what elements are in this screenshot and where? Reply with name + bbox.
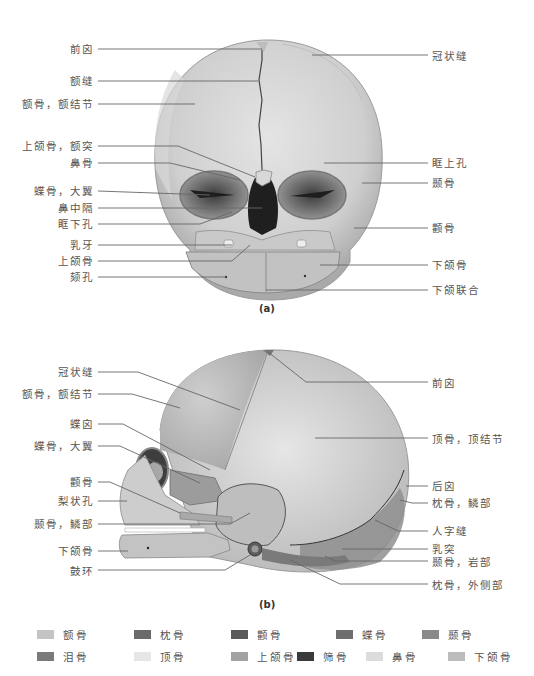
label-occipital-lateral-part: 枕骨，外侧部 bbox=[432, 579, 504, 591]
legend-label: 顶骨 bbox=[160, 649, 186, 664]
legend-label: 泪骨 bbox=[63, 649, 89, 664]
label-anterior-fontanelle: 前囟 bbox=[432, 377, 456, 389]
legend-item-nasal: 鼻骨 bbox=[366, 649, 418, 663]
legend-label: 鼻骨 bbox=[392, 649, 418, 664]
legend-item-ethmoid: 筛骨 bbox=[297, 649, 349, 663]
legend-swatch bbox=[231, 630, 248, 639]
label-tympanic-ring: 鼓环 bbox=[70, 565, 94, 577]
label-sphenoidal-fontanelle: 蝶囟 bbox=[70, 418, 94, 430]
legend-item-sphenoid: 蝶骨 bbox=[336, 627, 388, 641]
label-zygomatic-bone: 颧骨 bbox=[70, 476, 94, 488]
label-infraorbital-foramen: 眶下孔 bbox=[58, 218, 94, 230]
label-coronal-suture: 冠状缝 bbox=[432, 50, 468, 62]
legend-swatch bbox=[448, 652, 465, 661]
label-nasal-bone: 鼻骨 bbox=[70, 157, 94, 169]
label-mandibular-symphysis: 下颌联合 bbox=[432, 284, 480, 296]
label-parietal-tuber: 顶骨，顶结节 bbox=[432, 433, 504, 445]
legend-swatch bbox=[422, 630, 439, 639]
label-temporal-bone: 颞骨 bbox=[432, 177, 456, 189]
label-zygomatic-bone: 颧骨 bbox=[432, 222, 456, 234]
label-mandible: 下颌骨 bbox=[58, 545, 94, 557]
label-posterior-fontanelle: 后囟 bbox=[432, 480, 456, 492]
label-temporal-petrous: 颞骨，岩部 bbox=[432, 556, 492, 568]
label-sphenoid-greater-wing: 蝶骨，大翼 bbox=[34, 185, 94, 197]
legend-label: 额骨 bbox=[63, 627, 89, 642]
legend-label: 枕骨 bbox=[160, 627, 186, 642]
skull-diagram-figure: 前囟 额缝 额骨，额结节 上颌骨，额突 鼻骨 蝶骨，大翼 鼻中隔 眶下孔 乳牙 … bbox=[0, 0, 534, 676]
label-coronal-suture: 冠状缝 bbox=[58, 366, 94, 378]
legend-item-lacrimal: 泪骨 bbox=[37, 649, 89, 663]
label-frontal-tuber: 额骨，额结节 bbox=[22, 388, 94, 400]
legend-swatch bbox=[231, 652, 248, 661]
legend-label: 颞骨 bbox=[448, 627, 474, 642]
label-deciduous-tooth: 乳牙 bbox=[70, 239, 94, 251]
skull-lateral-view bbox=[98, 350, 428, 584]
legend-swatch bbox=[37, 630, 54, 639]
label-maxilla-frontal-process: 上颌骨，额突 bbox=[22, 140, 94, 152]
legend-label: 蝶骨 bbox=[362, 627, 388, 642]
label-temporal-squama: 颞骨，鳞部 bbox=[34, 518, 94, 530]
label-anterior-fontanelle: 前囟 bbox=[70, 43, 94, 55]
legend-label: 颧骨 bbox=[257, 627, 283, 642]
legend-swatch bbox=[37, 652, 54, 661]
legend-item-maxilla: 上颌骨 bbox=[231, 649, 296, 663]
legend-swatch bbox=[297, 652, 314, 661]
label-mastoid-process: 乳突 bbox=[432, 543, 456, 555]
skull-front-view bbox=[98, 40, 428, 300]
label-nasal-septum: 鼻中隔 bbox=[58, 202, 94, 214]
legend-item-parietal: 顶骨 bbox=[134, 649, 186, 663]
label-mental-foramen: 颏孔 bbox=[70, 271, 94, 283]
label-sphenoid-greater-wing: 蝶骨，大翼 bbox=[34, 440, 94, 452]
label-frontal-suture: 额缝 bbox=[70, 75, 94, 87]
legend-item-mandible: 下颌骨 bbox=[448, 649, 513, 663]
bone-color-legend: 额骨 枕骨 颧骨 蝶骨 颞骨 泪骨 顶骨 上颌骨 bbox=[0, 625, 534, 665]
legend-label: 下颌骨 bbox=[474, 649, 513, 664]
legend-label: 筛骨 bbox=[323, 649, 349, 664]
legend-swatch bbox=[134, 652, 151, 661]
legend-swatch bbox=[336, 630, 353, 639]
caption-figure-a: (a) bbox=[259, 303, 275, 314]
label-frontal-tuber: 额骨，额结节 bbox=[22, 98, 94, 110]
label-supraorbital-foramen: 眶上孔 bbox=[432, 157, 468, 169]
label-piriform-aperture: 梨状孔 bbox=[58, 495, 94, 507]
caption-figure-b: (b) bbox=[259, 599, 275, 610]
legend-item-occipital: 枕骨 bbox=[134, 627, 186, 641]
legend-swatch bbox=[366, 652, 383, 661]
label-maxilla: 上颌骨 bbox=[58, 255, 94, 267]
legend-swatch bbox=[134, 630, 151, 639]
label-mandible: 下颌骨 bbox=[432, 259, 468, 271]
legend-item-temporal: 颞骨 bbox=[422, 627, 474, 641]
legend-item-zygomatic: 颧骨 bbox=[231, 627, 283, 641]
label-lambdoid-suture: 人字缝 bbox=[432, 525, 468, 537]
label-occipital-squama: 枕骨，鳞部 bbox=[432, 497, 492, 509]
legend-label: 上颌骨 bbox=[257, 649, 296, 664]
legend-item-frontal: 额骨 bbox=[37, 627, 89, 641]
